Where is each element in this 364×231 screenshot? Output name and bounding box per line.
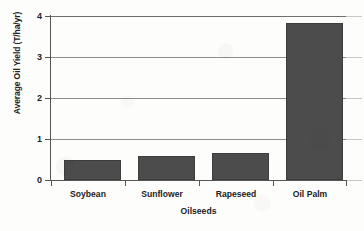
bar-rapeseed <box>212 153 269 180</box>
gridline-extension-1 <box>346 139 362 140</box>
x-tick-mark-4 <box>346 180 347 186</box>
y-tick-label-3: 3 <box>28 53 42 62</box>
gridline-extension-2 <box>346 98 362 99</box>
x-tick-mark-2 <box>199 180 200 186</box>
plot-area <box>51 16 346 180</box>
x-tick-mark-0 <box>51 180 52 186</box>
x-category-label-sunflower: Sunflower <box>125 189 199 199</box>
y-tick-label-0: 0 <box>28 176 42 185</box>
bar-chart: Average Oil Yield (T/ha/yr) 4 3 2 1 0 So… <box>0 0 364 231</box>
x-tick-mark-3 <box>273 180 274 186</box>
bar-sunflower <box>138 156 195 180</box>
gridline-extension-3 <box>346 57 362 58</box>
x-category-label-rapeseed: Rapeseed <box>199 189 273 199</box>
x-category-label-oil-palm: Oil Palm <box>273 189 347 199</box>
y-tick-label-4: 4 <box>28 12 42 21</box>
x-axis-title: Oilseeds <box>51 206 346 216</box>
bar-oil-palm <box>286 23 343 180</box>
bar-soybean <box>64 160 121 180</box>
y-tick-label-2: 2 <box>28 94 42 103</box>
y-tick-label-1: 1 <box>28 135 42 144</box>
gridline-extension-0 <box>346 180 362 181</box>
y-axis-title: Average Oil Yield (T/ha/yr) <box>12 0 26 138</box>
x-category-label-soybean: Soybean <box>51 189 125 199</box>
gridline-extension-4 <box>346 16 362 17</box>
x-tick-mark-1 <box>125 180 126 186</box>
gridline-4 <box>51 16 346 17</box>
